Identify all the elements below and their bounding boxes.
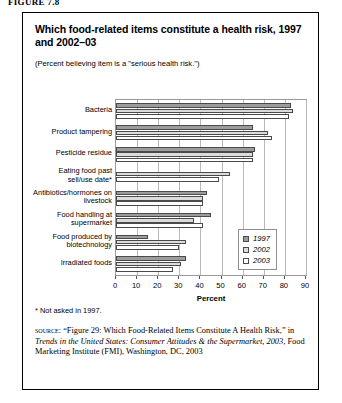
x-tick	[115, 276, 116, 279]
bar-2003	[116, 223, 203, 228]
x-tick	[178, 276, 179, 279]
bar-2002	[116, 131, 268, 136]
category-group	[116, 166, 306, 188]
bar-2002	[116, 109, 293, 114]
x-axis-title: Percent	[115, 294, 307, 303]
bar-1997	[116, 235, 148, 240]
category-label-line: Product tampering	[27, 128, 112, 137]
x-axis	[115, 276, 307, 280]
source-part1: “Figure 29: Which Food-Related Items Con…	[61, 326, 294, 335]
x-tick	[157, 276, 158, 279]
x-tick	[199, 276, 200, 279]
legend-item: 2002	[243, 244, 270, 255]
chart-subtitle: (Percent believing item is a "serious he…	[35, 59, 307, 69]
legend-swatch-1997	[243, 236, 249, 242]
source-note: source: “Figure 29: Which Food-Related I…	[35, 325, 307, 358]
category-group	[116, 188, 306, 210]
chart-legend: 199720022003	[238, 229, 277, 270]
category-group	[116, 231, 306, 253]
legend-label: 2002	[253, 245, 270, 254]
x-axis-tick-labels: 0102030405060708090	[85, 281, 337, 293]
category-group	[116, 253, 306, 275]
bar-2002	[116, 172, 230, 177]
x-tick	[221, 276, 222, 279]
category-label: Food handling atsupermarket	[27, 211, 112, 228]
category-label: Bacteria	[27, 106, 112, 115]
footnote: * Not asked in 1997.	[35, 306, 305, 315]
legend-item: 1997	[243, 233, 270, 244]
category-label: Food produced bybiotechnology	[27, 233, 112, 250]
figure-label: FIGURE 7.8	[8, 0, 60, 7]
bar-2003	[116, 177, 219, 182]
category-label: Product tampering	[27, 128, 112, 137]
bar-2002	[116, 196, 203, 201]
plot-area	[115, 99, 307, 276]
bar-2002	[116, 262, 181, 267]
category-group	[116, 209, 306, 231]
legend-label: 2003	[253, 256, 270, 265]
category-label-line: supermarket	[27, 219, 112, 228]
category-label: Irradiated foods	[27, 259, 112, 268]
x-tick	[242, 276, 243, 279]
legend-swatch-2002	[243, 247, 249, 253]
chart-title: Which food-related items constitute a he…	[35, 23, 307, 49]
category-label-line: livestock	[27, 197, 112, 206]
category-label-line: sell/use date*	[27, 176, 112, 185]
category-axis-labels: BacteriaProduct tamperingPesticide resid…	[23, 99, 112, 276]
bar-2002	[116, 218, 194, 223]
category-label-line: Irradiated foods	[27, 259, 112, 268]
bar-2003	[116, 245, 179, 250]
bar-2002	[116, 240, 186, 245]
bar-1997	[116, 125, 253, 130]
category-label-line: Bacteria	[27, 106, 112, 115]
category-label: Antibiotics/hormones onlivestock	[27, 189, 112, 206]
x-tick	[263, 276, 264, 279]
category-group	[116, 144, 306, 166]
bar-2003	[116, 267, 173, 272]
bar-1997	[116, 103, 291, 108]
legend-item: 2003	[243, 255, 270, 266]
bar-1997	[116, 191, 207, 196]
bar-2003	[116, 136, 272, 141]
legend-swatch-2003	[243, 258, 249, 264]
source-kicker: source:	[35, 325, 61, 335]
source-title-italic: Trends in the United States: Consumer At…	[35, 337, 283, 346]
legend-label: 1997	[253, 234, 270, 243]
category-group	[116, 100, 306, 122]
bar-1997	[116, 256, 186, 261]
figure-panel: Which food-related items constitute a he…	[22, 12, 319, 390]
category-label-line: biotechnology	[27, 241, 112, 250]
bar-2003	[116, 201, 203, 206]
x-tick	[284, 276, 285, 279]
bar-2003	[116, 114, 289, 119]
category-label: Pesticide residue	[27, 149, 112, 158]
gridline	[306, 100, 307, 275]
category-label: Eating food pastsell/use date*	[27, 167, 112, 184]
x-tick	[305, 276, 306, 279]
bar-2002	[116, 152, 253, 157]
category-label-line: Pesticide residue	[27, 149, 112, 158]
x-tick	[136, 276, 137, 279]
category-group	[116, 122, 306, 144]
bar-1997	[116, 147, 255, 152]
bar-2003	[116, 158, 253, 163]
x-tick-label: 90	[292, 281, 318, 290]
bar-1997	[116, 213, 211, 218]
